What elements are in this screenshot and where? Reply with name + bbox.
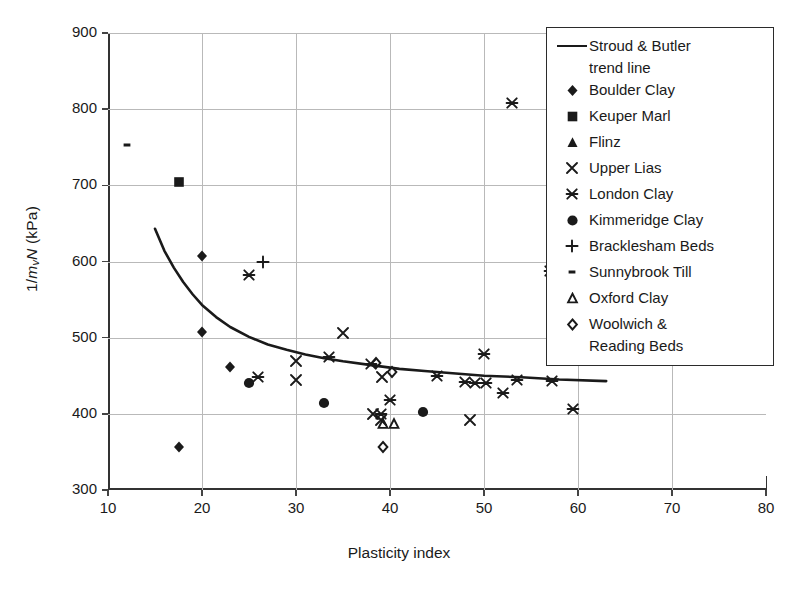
y-tick-label: 300	[43, 480, 97, 497]
y-tick-label: 800	[43, 99, 97, 116]
legend-label-continued: trend line	[589, 57, 767, 79]
legend-label: London Clay	[589, 183, 673, 205]
legend-marker-triangle-filled-icon	[555, 131, 589, 153]
legend-item[interactable]: London Clay	[555, 183, 767, 209]
axis-right-stub	[766, 476, 767, 490]
legend-item[interactable]: Boulder Clay	[555, 79, 767, 105]
legend-marker-plus-icon	[555, 235, 589, 257]
y-tick-label: 700	[43, 175, 97, 192]
x-tick	[671, 490, 672, 496]
legend-label: Flinz	[589, 131, 621, 153]
legend-item[interactable]: Bracklesham Beds	[555, 235, 767, 261]
x-tick-label: 80	[746, 499, 786, 516]
legend-marker-triangle-open-icon	[555, 287, 589, 309]
x-tick-label: 50	[464, 499, 504, 516]
y-tick-label: 600	[43, 252, 97, 269]
x-tick	[483, 490, 484, 496]
legend-item[interactable]: Upper Lias	[555, 157, 767, 183]
legend-label: Upper Lias	[589, 157, 662, 179]
legend-label: Bracklesham Beds	[589, 235, 714, 257]
legend-marker-square-icon	[555, 105, 589, 127]
x-tick-label: 30	[276, 499, 316, 516]
legend-marker-diamond-open-icon	[555, 313, 589, 335]
legend-marker-x-icon	[555, 157, 589, 179]
y-axis-title-unit: (kPa)	[23, 206, 40, 249]
legend: Stroud & Butlertrend lineBoulder ClayKeu…	[546, 27, 774, 366]
legend-item[interactable]: Sunnybrook Till	[555, 261, 767, 287]
legend-label: Oxford Clay	[589, 287, 668, 309]
x-tick-label: 40	[370, 499, 410, 516]
legend-marker-diamond-icon	[555, 79, 589, 101]
y-tick-label: 900	[43, 23, 97, 40]
x-tick-label: 70	[652, 499, 692, 516]
x-tick-label: 20	[182, 499, 222, 516]
legend-item[interactable]: Kimmeridge Clay	[555, 209, 767, 235]
x-tick	[765, 490, 766, 496]
legend-item[interactable]: Flinz	[555, 131, 767, 157]
legend-marker-circle-icon	[555, 209, 589, 231]
legend-label: Sunnybrook Till	[589, 261, 692, 283]
legend-label: Stroud & Butler	[589, 35, 691, 57]
figure-caption	[36, 572, 756, 586]
x-axis-title: Plasticity index	[0, 544, 798, 562]
x-tick	[107, 490, 108, 496]
legend-label: Woolwich &	[589, 313, 667, 335]
legend-item[interactable]: Oxford Clay	[555, 287, 767, 313]
legend-label-continued: Reading Beds	[589, 335, 767, 357]
legend-label: Boulder Clay	[589, 79, 675, 101]
legend-marker-star-x-icon	[555, 183, 589, 205]
legend-label: Keuper Marl	[589, 105, 671, 127]
y-tick-label: 500	[43, 328, 97, 345]
y-axis-title: 1/mvN (kPa)	[23, 179, 41, 319]
y-tick-label: 400	[43, 404, 97, 421]
y-axis-title-n: N	[23, 249, 40, 260]
legend-marker-line-icon	[555, 35, 589, 57]
x-tick-label: 60	[558, 499, 598, 516]
y-axis-title-m: m	[23, 266, 40, 279]
y-axis-title-pre: 1/	[23, 279, 40, 292]
legend-marker-dash-icon	[555, 261, 589, 283]
figure-scatter-plot: 1/mvN (kPa) Plasticity index 30040050060…	[0, 0, 798, 592]
x-tick	[295, 490, 296, 496]
x-tick	[201, 490, 202, 496]
legend-label: Kimmeridge Clay	[589, 209, 703, 231]
y-axis-title-sub: v	[29, 260, 41, 266]
x-tick	[577, 490, 578, 496]
legend-item[interactable]: Keuper Marl	[555, 105, 767, 131]
x-tick-label: 10	[88, 499, 128, 516]
x-tick	[389, 490, 390, 496]
